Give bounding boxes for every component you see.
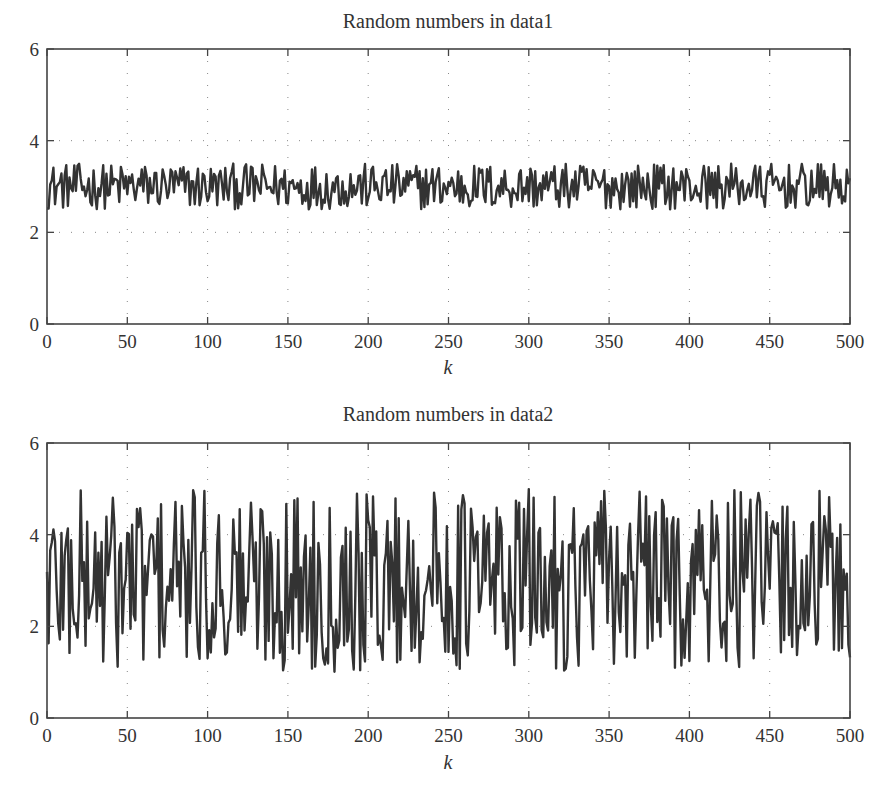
x-tick-label: 400	[675, 725, 704, 746]
x-tick-label: 0	[42, 725, 52, 746]
y-tick-label: 2	[30, 222, 40, 243]
y-tick-label: 0	[30, 314, 40, 335]
y-tick-label: 2	[30, 616, 40, 637]
x-tick-label: 350	[595, 331, 624, 352]
x-tick-label: 400	[675, 331, 704, 352]
x-tick-label: 200	[354, 725, 383, 746]
x-tick-label: 150	[274, 331, 303, 352]
plot-title: Random numbers in data2	[343, 403, 554, 425]
figure: Random numbers in data1 0501001502002503…	[0, 0, 881, 795]
x-tick-label: 150	[274, 725, 303, 746]
x-tick-label: 100	[193, 725, 222, 746]
plot-title: Random numbers in data1	[343, 10, 554, 32]
x-tick-label: 50	[118, 725, 137, 746]
x-tick-label: 500	[836, 725, 865, 746]
x-axis-label: k	[444, 751, 454, 773]
x-axis-label: k	[444, 356, 454, 378]
x-tick-label: 250	[434, 725, 463, 746]
y-tick-label: 6	[30, 39, 40, 60]
x-tick-label: 100	[193, 331, 222, 352]
y-tick-label: 6	[30, 433, 40, 454]
x-tick-label: 250	[434, 331, 463, 352]
figure-canvas: Random numbers in data1 0501001502002503…	[0, 0, 881, 795]
data1-line	[47, 164, 850, 210]
x-tick-label: 300	[515, 331, 544, 352]
x-tick-label: 50	[118, 331, 137, 352]
x-tick-label: 450	[755, 725, 784, 746]
y-tick-label: 4	[30, 131, 40, 152]
x-tick-label: 450	[755, 331, 784, 352]
x-tick-label: 0	[42, 331, 52, 352]
x-tick-label: 200	[354, 331, 383, 352]
plot-data2: Random numbers in data2 0501001502002503…	[30, 403, 865, 773]
x-tick-label: 350	[595, 725, 624, 746]
x-tick-label: 500	[836, 331, 865, 352]
plot-data1: Random numbers in data1 0501001502002503…	[30, 10, 865, 378]
x-tick-label: 300	[515, 725, 544, 746]
y-tick-label: 0	[30, 708, 40, 729]
y-tick-label: 4	[30, 525, 40, 546]
data2-line	[47, 489, 850, 672]
